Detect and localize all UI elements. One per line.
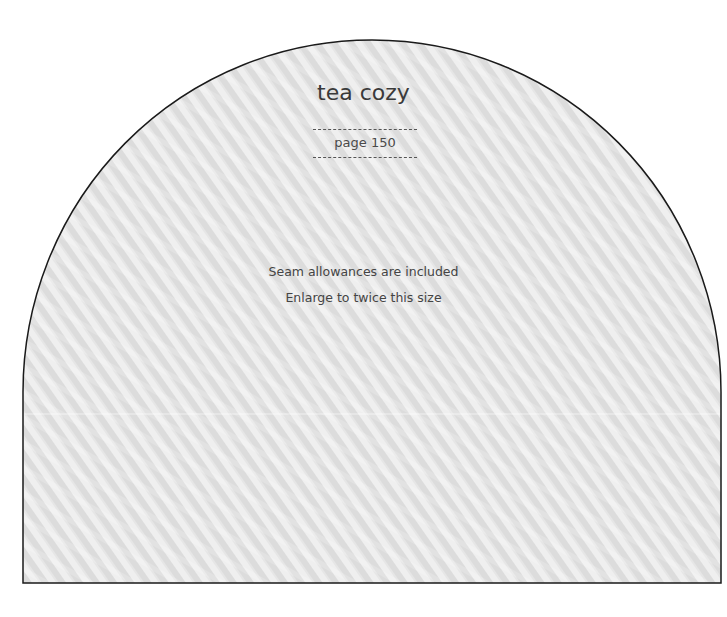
page-reference-label: page 150 <box>313 135 417 150</box>
page-reference: page 150 <box>313 128 417 158</box>
dashed-divider-top <box>313 129 417 130</box>
dashed-divider-bottom <box>313 157 417 158</box>
enlarge-instruction-note: Enlarge to twice this size <box>0 290 727 305</box>
pattern-title: tea cozy <box>0 80 727 105</box>
seam-allowance-note: Seam allowances are included <box>0 264 727 279</box>
